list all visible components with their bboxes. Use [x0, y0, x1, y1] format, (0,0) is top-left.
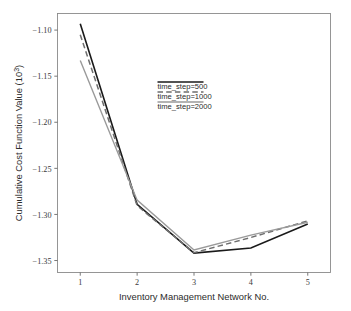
y-tick-label: −1.20	[33, 118, 52, 127]
x-tick-label: 2	[135, 278, 139, 287]
y-tick-label: −1.30	[33, 211, 52, 220]
chart-legend: time_step=500time_step=1000time_step=200…	[158, 82, 212, 111]
legend-label-1: time_step=500	[158, 82, 208, 91]
x-tick-label: 3	[192, 278, 196, 287]
y-axis-title: Cumulative Cost Function Value (103)	[13, 65, 24, 221]
y-tick-label: −1.25	[33, 165, 52, 174]
y-tick-label: −1.15	[33, 72, 52, 81]
chart-canvas: −1.10−1.15−1.20−1.25−1.30−1.3512345Inven…	[0, 0, 351, 311]
legend-label-3: time_step=2000	[158, 102, 212, 111]
x-axis-title: Inventory Management Network No.	[119, 291, 269, 302]
x-tick-label: 5	[306, 278, 310, 287]
plot-frame	[58, 14, 331, 273]
legend-label-2: time_step=1000	[158, 92, 212, 101]
y-tick-label: −1.35	[33, 257, 52, 266]
y-axis-title-close: )	[13, 65, 24, 68]
y-tick-label: −1.10	[33, 26, 52, 35]
x-tick-label: 4	[249, 278, 253, 287]
y-axis-title-main: Cumulative Cost Function Value (10	[13, 72, 24, 221]
chart-figure: −1.10−1.15−1.20−1.25−1.30−1.3512345Inven…	[0, 0, 351, 311]
x-tick-label: 1	[78, 278, 82, 287]
